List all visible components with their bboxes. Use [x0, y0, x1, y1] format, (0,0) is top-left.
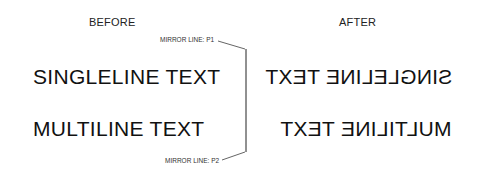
p1-leader-line [218, 41, 245, 49]
mirror-text-diagram: BEFORE AFTER MIRROR LINE: P1 MIRROR LINE… [0, 0, 485, 179]
mirror-line-graphics [0, 0, 485, 179]
p2-leader-line [222, 152, 245, 160]
